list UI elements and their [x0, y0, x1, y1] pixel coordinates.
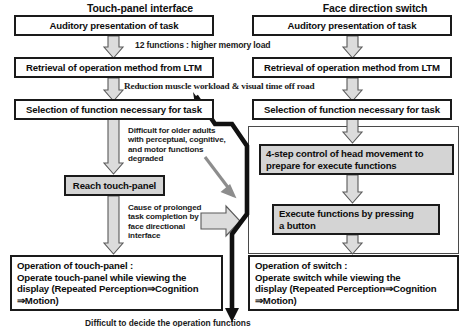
box-left-selection-function: Selection of function necessary for task: [14, 99, 214, 120]
box-right-head-movement-control: 4-step control of head movement to prepa…: [259, 144, 454, 175]
box-left-operation-touch-panel: Operation of touch-panel : Operate touch…: [10, 255, 223, 311]
box-left-auditory-presentation: Auditory presentation of task: [14, 15, 214, 36]
arrow-down-left-2: [104, 78, 123, 101]
box-label: Execute functions by pressing a button: [279, 208, 436, 231]
arrow-down-left-4: [104, 196, 123, 254]
arrow-down-left-1: [104, 36, 123, 58]
box-label: Auditory presentation of task: [256, 20, 448, 32]
box-right-selection-function: Selection of function necessary for task: [252, 99, 452, 120]
box-right-auditory-presentation: Auditory presentation of task: [252, 15, 452, 36]
box-right-retrieval-ltm: Retrieval of operation method from LTM: [252, 57, 452, 78]
box-left-retrieval-ltm: Retrieval of operation method from LTM: [14, 57, 214, 78]
arrow-down-right-1: [343, 36, 362, 58]
box-label: Auditory presentation of task: [18, 20, 210, 32]
box-label: Selection of function necessary for task: [18, 104, 210, 116]
box-label: Retrieval of operation method from LTM: [256, 62, 448, 74]
column-header-left: Touch-panel interface: [55, 2, 225, 14]
box-label: Reach touch-panel: [68, 180, 161, 192]
annotation-difficult-older-adults: Difficult for older adults with perceptu…: [128, 126, 238, 164]
box-right-execute-functions: Execute functions by pressing a button: [272, 204, 440, 235]
annotation-reduction-workload: Reduction muscle workload & visual time …: [124, 82, 314, 91]
box-label: Selection of function necessary for task: [256, 104, 448, 116]
column-header-right: Face direction switch: [290, 2, 460, 14]
box-label: Operation of touch-panel : Operate touch…: [17, 260, 219, 306]
arrow-down-right-2: [343, 78, 362, 101]
bottom-cut-caption: Difficult to decide the operation functi…: [85, 318, 385, 327]
annotation-memory-load: 12 functions : higher memory load: [135, 41, 270, 50]
diagram-canvas: Touch-panel interface Face direction swi…: [0, 0, 463, 327]
box-label: 4-step control of head movement to prepa…: [266, 148, 450, 171]
box-label: Operation of switch : Operate switch whi…: [255, 260, 455, 306]
annotation-prolonged-task: Cause of prolonged task completion by fa…: [128, 203, 208, 241]
box-label: Retrieval of operation method from LTM: [18, 62, 210, 74]
arrow-down-left-3: [104, 119, 123, 174]
box-left-reach-touch-panel: Reach touch-panel: [64, 175, 165, 196]
box-right-operation-switch: Operation of switch : Operate switch whi…: [248, 255, 459, 311]
